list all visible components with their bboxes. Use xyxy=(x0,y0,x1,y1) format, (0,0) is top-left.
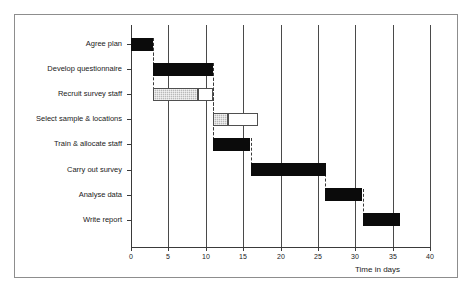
gantt-bar[interactable] xyxy=(213,138,250,151)
y-axis-tick xyxy=(127,144,131,145)
gantt-float-bar[interactable] xyxy=(228,113,258,126)
x-axis-tick-label: 0 xyxy=(119,252,143,261)
x-axis-tick-label: 15 xyxy=(231,252,255,261)
task-row-label: Analyse data xyxy=(79,190,122,199)
gantt-bar[interactable] xyxy=(213,113,228,126)
x-axis-tick-label: 5 xyxy=(156,252,180,261)
gantt-bar[interactable] xyxy=(153,88,198,101)
x-gridline xyxy=(430,25,431,247)
gantt-bar[interactable] xyxy=(251,163,326,176)
y-axis-tick xyxy=(127,195,131,196)
task-row-label: Recruit survey staff xyxy=(58,89,122,98)
task-row-label: Train & allocate staff xyxy=(54,139,122,148)
x-gridline xyxy=(355,25,356,247)
gantt-bar[interactable] xyxy=(363,213,400,226)
y-axis-tick xyxy=(127,119,131,120)
task-row-label: Develop questionnaire xyxy=(47,64,122,73)
y-axis-line xyxy=(131,25,132,247)
y-axis-tick xyxy=(127,220,131,221)
gantt-bar[interactable] xyxy=(153,63,213,76)
x-axis-tick-label: 30 xyxy=(343,252,367,261)
x-axis-line xyxy=(131,247,430,248)
plot-area: 0510152025303540Agree planDevelop questi… xyxy=(0,0,472,293)
task-row-label: Write report xyxy=(83,215,122,224)
x-axis-title: Time in days xyxy=(355,265,400,275)
x-gridline xyxy=(168,25,169,247)
gantt-bar[interactable] xyxy=(131,38,153,51)
x-axis-tick-label: 40 xyxy=(418,252,442,261)
x-axis-tick-label: 20 xyxy=(269,252,293,261)
gantt-bar[interactable] xyxy=(325,188,362,201)
x-gridline xyxy=(318,25,319,247)
y-axis-tick xyxy=(127,94,131,95)
gantt-float-bar[interactable] xyxy=(198,88,213,101)
y-axis-tick xyxy=(127,170,131,171)
x-gridline xyxy=(206,25,207,247)
x-axis-tick-label: 10 xyxy=(194,252,218,261)
task-row-label: Carry out survey xyxy=(67,165,122,174)
task-row-label: Agree plan xyxy=(86,39,122,48)
y-axis-tick xyxy=(127,69,131,70)
task-row-label: Select sample & locations xyxy=(36,114,122,123)
x-axis-tick-label: 35 xyxy=(381,252,405,261)
x-axis-tick xyxy=(430,247,431,251)
gantt-chart-figure: 0510152025303540Agree planDevelop questi… xyxy=(0,0,472,293)
x-axis-tick-label: 25 xyxy=(306,252,330,261)
x-gridline xyxy=(281,25,282,247)
x-gridline xyxy=(243,25,244,247)
